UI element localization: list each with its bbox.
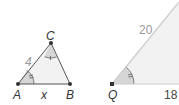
angle-q-tick-2 <box>129 77 133 78</box>
label-x: x <box>40 88 48 102</box>
vertex-b-dot <box>68 82 72 86</box>
label-c: C <box>46 29 55 43</box>
angle-a-tick-2 <box>30 78 34 79</box>
label-side-ac: 4 <box>25 55 32 69</box>
triangle-q: Q 20 18 <box>108 2 179 102</box>
label-b: B <box>66 88 74 102</box>
diagram-canvas: C A B x 4 Q 20 18 <box>0 0 179 105</box>
label-side-20: 20 <box>139 23 153 37</box>
label-side-18: 18 <box>164 88 178 102</box>
label-a: A <box>12 88 21 102</box>
label-q: Q <box>108 88 117 102</box>
vertex-a-dot <box>16 82 20 86</box>
vertex-q-dot <box>110 82 114 86</box>
triangle-abc: C A B x 4 <box>12 29 74 102</box>
